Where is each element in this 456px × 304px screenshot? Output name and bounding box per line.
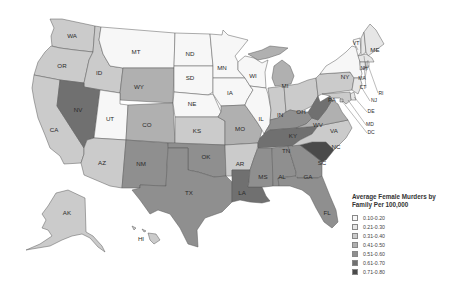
label-WI: WI	[249, 72, 257, 79]
label-RI: RI	[379, 90, 384, 96]
label-MT: MT	[132, 48, 141, 55]
label-MI: MI	[282, 82, 289, 89]
label-WY: WY	[134, 83, 144, 90]
legend-swatch	[352, 233, 358, 239]
legend-label: 0.71-0.80	[363, 269, 385, 275]
label-AZ: AZ	[98, 159, 106, 166]
legend-label: 0.51-0.60	[363, 251, 385, 257]
legend-item: 0.21-0.30	[352, 223, 456, 231]
label-NE: NE	[188, 100, 197, 107]
label-IA: IA	[227, 89, 234, 96]
label-DC: DC	[367, 129, 375, 135]
label-VA: VA	[330, 127, 339, 134]
label-SD: SD	[186, 74, 195, 81]
label-DE: DE	[368, 108, 376, 114]
label-OK: OK	[202, 153, 212, 160]
state-FL	[278, 176, 338, 228]
label-UT: UT	[106, 115, 114, 122]
legend-item: 0.51-0.60	[352, 250, 456, 258]
label-MS: MS	[258, 173, 267, 180]
label-NV: NV	[74, 106, 83, 113]
label-MD: MD	[366, 121, 374, 127]
legend-item: 0.61-0.70	[352, 259, 456, 267]
state-HI	[132, 226, 160, 244]
label-AR: AR	[236, 160, 245, 167]
label-ME: ME	[370, 46, 379, 53]
label-NJ: NJ	[371, 97, 378, 103]
label-GA: GA	[304, 173, 314, 180]
legend-title: Average Female Murders by Family Per 100…	[352, 193, 456, 209]
label-ID: ID	[96, 69, 103, 76]
label-IN: IN	[277, 111, 283, 118]
label-SC: SC	[318, 159, 327, 166]
label-HI: HI	[138, 235, 144, 242]
legend-swatch	[352, 242, 358, 248]
label-NY: NY	[341, 73, 350, 80]
state-WY	[120, 68, 174, 103]
state-AK	[26, 190, 105, 252]
legend-swatch	[352, 251, 358, 257]
label-FL: FL	[323, 209, 331, 216]
label-IL: IL	[258, 115, 264, 122]
state-MA	[358, 54, 374, 62]
legend-label: 0.31-0.40	[363, 233, 385, 239]
legend-item: 0.71-0.80	[352, 268, 456, 276]
legend-label: 0.10-0.20	[363, 215, 385, 221]
label-WV: WV	[313, 121, 324, 128]
label-MN: MN	[217, 64, 227, 71]
legend-item: 0.41-0.50	[352, 241, 456, 249]
label-ND: ND	[186, 50, 195, 57]
label-LA: LA	[238, 189, 246, 196]
label-AL: AL	[278, 173, 286, 180]
legend-label: 0.61-0.70	[363, 260, 385, 266]
legend-item: 0.31-0.40	[352, 232, 456, 240]
legend-swatch	[352, 269, 358, 275]
legend-swatch	[352, 215, 358, 221]
legend-rows: 0.10-0.20 0.21-0.30 0.31-0.40 0.41-0.50 …	[352, 214, 456, 276]
label-VT: VT	[353, 40, 359, 46]
label-MO: MO	[235, 125, 245, 132]
legend-swatch	[352, 224, 358, 230]
legend: Average Female Murders by Family Per 100…	[352, 193, 456, 276]
label-KS: KS	[193, 127, 201, 134]
legend-label: 0.21-0.30	[363, 224, 385, 230]
state-NE	[173, 92, 221, 117]
label-WA: WA	[67, 32, 78, 39]
label-TN: TN	[282, 147, 290, 154]
label-KY: KY	[289, 132, 297, 139]
label-CO: CO	[142, 121, 151, 128]
label-NC: NC	[332, 143, 341, 150]
legend-item: 0.10-0.20	[352, 214, 456, 222]
legend-label: 0.41-0.50	[363, 242, 385, 248]
label-OR: OR	[57, 62, 67, 69]
label-CA: CA	[50, 126, 59, 133]
label-NM: NM	[136, 160, 146, 167]
label-OH: OH	[296, 108, 305, 115]
legend-swatch	[352, 260, 358, 266]
label-TX: TX	[185, 189, 193, 196]
label-PA: PA	[328, 96, 337, 103]
label-AK: AK	[63, 209, 72, 216]
